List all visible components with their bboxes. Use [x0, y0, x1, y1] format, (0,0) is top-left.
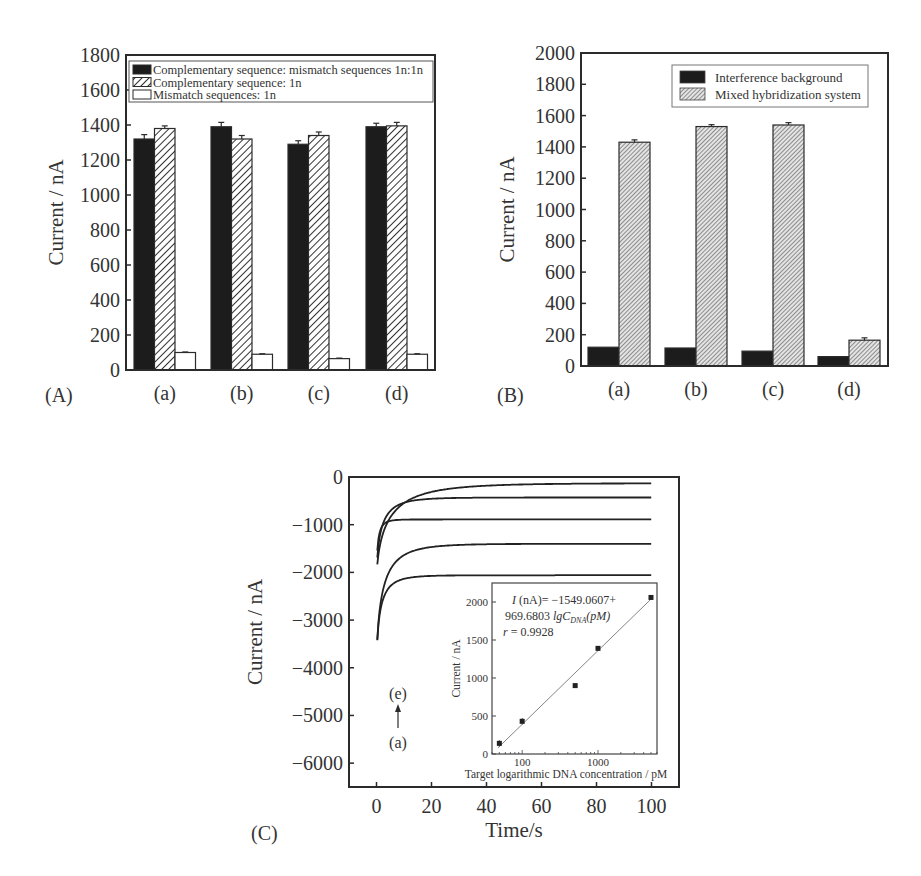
bar [211, 127, 232, 370]
inset-x-axis-label: Target logarithmic DNA concentration / p… [465, 768, 667, 781]
y-tick-label: 200 [545, 324, 575, 346]
bar [818, 357, 849, 366]
y-tick-label: 0 [565, 355, 575, 377]
bar [366, 127, 387, 370]
annotation-top: (e) [389, 685, 407, 703]
fit-equation: I (nA)= −1549.0607+ [511, 593, 616, 607]
bar [696, 127, 727, 366]
y-tick-label: −6000 [292, 752, 343, 774]
y-tick-label: 1600 [80, 79, 120, 101]
y-tick-label: 1000 [535, 199, 575, 221]
inset-chart: 05001000150020001001000Target logarithmi… [450, 583, 667, 781]
bar [155, 129, 176, 371]
inset-y-axis-label: Current / nA [450, 639, 462, 698]
bar [619, 142, 650, 366]
bar [309, 136, 330, 371]
y-tick-label: −1000 [292, 514, 343, 536]
y-tick-label: 600 [545, 261, 575, 283]
y-tick-label: 600 [90, 254, 120, 276]
x-tick-label: 100 [637, 795, 667, 817]
bar [407, 354, 428, 370]
bar [849, 340, 880, 366]
inset-x-tick-label: 100 [514, 756, 531, 768]
y-tick-label: 0 [110, 359, 120, 381]
y-tick-label: 1800 [535, 73, 575, 95]
inset-x-tick-label: 1000 [587, 756, 610, 768]
y-tick-label: −3000 [292, 609, 343, 631]
data-point [648, 595, 653, 600]
y-tick-label: 1000 [80, 184, 120, 206]
category-label: (a) [608, 378, 630, 401]
bar [742, 351, 773, 366]
bar [387, 126, 408, 370]
bar [773, 125, 804, 366]
inset-y-tick-label: 500 [472, 710, 489, 722]
chart-b: 0200400600800100012001400160018002000Cur… [495, 42, 888, 407]
x-tick-label: 60 [532, 795, 552, 817]
category-label: (d) [385, 382, 408, 405]
y-axis-label: Current / nA [495, 156, 519, 263]
x-tick-label: 40 [477, 795, 497, 817]
data-point [595, 646, 600, 651]
category-label: (b) [684, 378, 707, 401]
panel-label: (B) [497, 384, 524, 407]
data-point [497, 741, 502, 746]
x-axis-label: Time/s [485, 818, 543, 842]
y-tick-label: 1400 [80, 114, 120, 136]
x-tick-label: 20 [422, 795, 442, 817]
legend-entry: Mixed hybridization system [715, 87, 861, 102]
inset-y-tick-label: 1500 [466, 634, 489, 646]
y-tick-label: 2000 [535, 42, 575, 64]
legend-entry: Interference background [715, 70, 843, 85]
y-tick-label: 400 [90, 289, 120, 311]
y-tick-label: 200 [90, 324, 120, 346]
arrow-up-icon [395, 704, 401, 712]
inset-y-tick-label: 1000 [466, 672, 489, 684]
y-tick-label: 1200 [80, 149, 120, 171]
legend: Interference backgroundMixed hybridizati… [672, 65, 868, 107]
inset-y-tick-label: 0 [483, 748, 489, 760]
bar [329, 359, 350, 370]
chart-c: 0−1000−2000−3000−4000−5000−6000020406080… [243, 466, 679, 845]
y-tick-label: 1600 [535, 105, 575, 127]
y-tick-label: −5000 [292, 704, 343, 726]
bar [665, 348, 696, 366]
y-axis-label: Current / nA [44, 159, 68, 266]
bar [252, 354, 273, 370]
legend-entry: Mismatch sequences: 1n [153, 88, 277, 102]
category-label: (d) [837, 378, 860, 401]
chart-a: 020040060080010001200140016001800Current… [44, 44, 435, 407]
bar [175, 353, 196, 371]
y-tick-label: 1200 [535, 167, 575, 189]
y-tick-label: 400 [545, 292, 575, 314]
inset-y-tick-label: 2000 [466, 596, 489, 608]
bar [288, 144, 309, 370]
bar [134, 139, 155, 370]
category-label: (c) [762, 378, 784, 401]
current-curve [377, 483, 651, 564]
y-tick-label: −4000 [292, 657, 343, 679]
category-label: (a) [154, 382, 176, 405]
current-curve [377, 519, 651, 550]
panel-label: (C) [251, 822, 278, 845]
x-tick-label: 0 [372, 795, 382, 817]
y-tick-label: 0 [333, 466, 343, 488]
y-axis-label: Current / nA [243, 578, 267, 685]
y-tick-label: 800 [90, 219, 120, 241]
bar [232, 139, 253, 370]
fit-equation-line2: 969.6803 lgCDNA(pM) [505, 609, 610, 625]
data-point [520, 719, 525, 724]
x-tick-label: 80 [587, 795, 607, 817]
y-tick-label: −2000 [292, 561, 343, 583]
y-tick-label: 800 [545, 230, 575, 252]
y-tick-label: 1400 [535, 136, 575, 158]
panel-label: (A) [45, 384, 73, 407]
data-point [573, 683, 578, 688]
category-label: (c) [308, 382, 330, 405]
category-label: (b) [230, 382, 253, 405]
legend: Complementary sequence: mismatch sequenc… [129, 61, 433, 102]
annotation-bottom: (a) [389, 734, 407, 752]
correlation-coefficient: r = 0.9928 [503, 625, 553, 639]
y-tick-label: 1800 [80, 44, 120, 66]
figure: 020040060080010001200140016001800Current… [0, 0, 921, 876]
